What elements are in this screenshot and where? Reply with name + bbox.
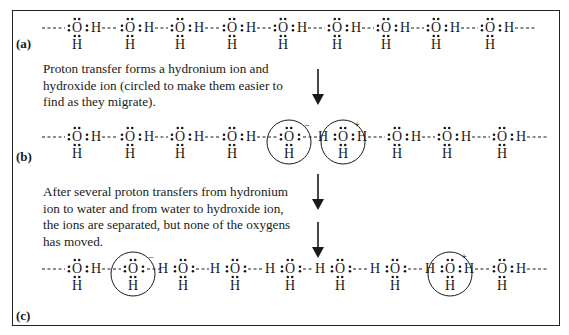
electron-dot	[334, 134, 337, 137]
down-arrow-icon	[312, 199, 324, 210]
electron-dot	[86, 138, 89, 141]
electron-dot	[181, 127, 184, 130]
hydrogen-atom: H	[381, 37, 391, 52]
electron-dot	[499, 25, 502, 28]
electron-dot	[346, 29, 349, 32]
hydrogen-atom: H	[351, 20, 361, 35]
hydrogen-atom: H	[338, 146, 348, 161]
electron-dot	[445, 29, 448, 32]
electron-dot	[142, 270, 145, 273]
electron-dot	[433, 18, 436, 21]
electron-dot	[139, 138, 142, 141]
hydrogen-atom: H	[158, 261, 168, 276]
electron-dot	[74, 259, 77, 262]
electron-dot	[337, 259, 340, 262]
oxygen-atom: O	[497, 261, 507, 276]
hydrogen-atom: H	[125, 37, 135, 52]
electron-dot	[223, 138, 226, 141]
oxygen-atom: O	[72, 129, 82, 144]
hydrogen-atom: H	[332, 37, 342, 52]
electron-dot	[441, 270, 444, 273]
hydrogen-atom: H	[442, 146, 452, 161]
water-molecule: OHH	[315, 259, 351, 293]
electron-dot	[511, 266, 514, 269]
water-molecule: OHH	[328, 18, 361, 52]
hydrogen-atom: H	[227, 146, 237, 161]
hydronium-ion: OHHH+	[318, 119, 367, 164]
electron-dot	[121, 138, 124, 141]
electron-dot	[233, 127, 236, 130]
water-molecule: OHH	[427, 18, 460, 52]
electron-dot	[292, 25, 295, 28]
electron-dot	[487, 18, 490, 21]
oxygen-atom: O	[230, 261, 240, 276]
electron-dot	[86, 29, 89, 32]
electron-dot	[459, 266, 462, 269]
electron-dot	[341, 259, 344, 262]
electron-dot	[499, 29, 502, 32]
electron-dot	[290, 127, 293, 130]
electron-dot	[226, 266, 229, 269]
hydroxide-ion: OH−	[111, 252, 155, 296]
water-molecule: OHH	[68, 18, 101, 52]
oxygen-atom: O	[390, 261, 400, 276]
electron-dot	[427, 29, 430, 32]
electron-dot	[331, 270, 334, 273]
oxygen-atom: O	[381, 20, 391, 35]
electron-dot	[493, 270, 496, 273]
oxygen-atom: O	[338, 129, 348, 144]
electron-dot	[131, 127, 134, 130]
water-molecule: OHH	[265, 259, 301, 293]
electron-dot	[171, 138, 174, 141]
hydronium-ion: OHHH+	[425, 251, 474, 296]
electron-dot	[86, 266, 89, 269]
electron-dot	[437, 18, 440, 21]
electron-dot	[281, 266, 284, 269]
electron-dot	[68, 266, 71, 269]
electron-dot	[139, 25, 142, 28]
water-chain-a: OHHOHHOHHOHHOHHOHHOHHOHHOHH	[42, 18, 535, 52]
hydrogen-atom: H	[91, 129, 101, 144]
electron-dot	[438, 138, 441, 141]
hydrogen-atom: H	[370, 261, 380, 276]
electron-dot	[493, 138, 496, 141]
electron-dot	[346, 25, 349, 28]
hydrogen-atom: H	[210, 261, 220, 276]
electron-dot	[481, 29, 484, 32]
electron-dot	[459, 270, 462, 273]
oxygen-atom: O	[445, 261, 455, 276]
oxygen-atom: O	[485, 20, 495, 35]
hydrogen-atom: H	[504, 20, 514, 35]
electron-dot	[349, 266, 352, 269]
electron-dot	[241, 134, 244, 137]
electron-dot	[274, 25, 277, 28]
electron-dot	[445, 25, 448, 28]
electron-dot	[503, 259, 506, 262]
hydrogen-atom: H	[91, 261, 101, 276]
electron-dot	[499, 259, 502, 262]
electron-dot	[398, 127, 401, 130]
electron-dot	[121, 29, 124, 32]
electron-dot	[124, 266, 127, 269]
electron-dot	[130, 259, 133, 262]
electron-dot	[499, 127, 502, 130]
water-molecule: OHH	[121, 18, 154, 52]
electron-dot	[511, 138, 514, 141]
oxygen-atom: O	[175, 20, 185, 35]
electron-dot	[291, 259, 294, 262]
electron-dot	[233, 18, 236, 21]
electron-dot	[456, 138, 459, 141]
electron-dot	[189, 138, 192, 141]
hydrogen-atom: H	[392, 146, 402, 161]
electron-dot	[192, 270, 195, 273]
hydroxide-ion: OH−	[267, 120, 311, 164]
hydrogen-atom: H	[461, 129, 471, 144]
electron-dot	[223, 29, 226, 32]
hydrogen-atom: H	[284, 146, 294, 161]
oxygen-atom: O	[227, 129, 237, 144]
water-molecule: OHH	[68, 127, 101, 161]
electron-dot	[244, 266, 247, 269]
electron-dot	[189, 25, 192, 28]
electron-dot	[377, 29, 380, 32]
hydrogen-atom: H	[246, 20, 256, 35]
